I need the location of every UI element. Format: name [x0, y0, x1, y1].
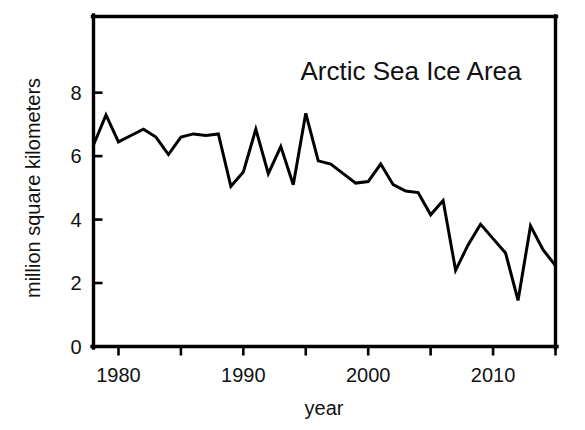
data-series-line [94, 113, 556, 300]
chart-title-annotation: Arctic Sea Ice Area [300, 56, 522, 86]
y-axis-tick-label: 0 [70, 336, 81, 358]
y-axis-tick-label: 4 [70, 209, 81, 231]
y-axis-tick-labels: 02468 [70, 82, 81, 358]
x-axis-tick-labels: 1980199020002010 [96, 364, 515, 386]
x-axis-label: year [305, 397, 344, 419]
arctic-sea-ice-line-chart: 02468 1980199020002010 Arctic Sea Ice Ar… [0, 0, 585, 430]
x-axis-tick-label: 1990 [221, 364, 266, 386]
y-axis-tick-label: 2 [70, 272, 81, 294]
y-axis-tick-label: 8 [70, 82, 81, 104]
x-axis-tick-label: 1980 [96, 364, 141, 386]
y-axis-tick-label: 6 [70, 145, 81, 167]
x-axis-tick-label: 2000 [346, 364, 391, 386]
y-axis-label: million square kilometers [22, 78, 44, 298]
x-axis-tick-label: 2010 [471, 364, 516, 386]
chart-figure: 02468 1980199020002010 Arctic Sea Ice Ar… [0, 0, 585, 430]
